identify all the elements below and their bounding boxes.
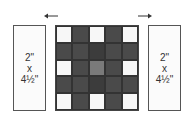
left-strip-height: 4½" (21, 74, 38, 85)
block-cell (72, 76, 88, 93)
block-cell (56, 60, 72, 77)
block-cell (105, 43, 121, 60)
block-cell (89, 76, 105, 93)
block-cell (72, 26, 88, 43)
right-strip-height: 4½" (156, 74, 173, 85)
block-cell (89, 26, 105, 43)
block-cell (122, 93, 138, 110)
arrow-left-icon (44, 12, 58, 20)
block-cell (122, 26, 138, 43)
block-cell (56, 26, 72, 43)
block-cell (105, 60, 121, 77)
block-cell (122, 43, 138, 60)
block-cell (56, 43, 72, 60)
block-cell (72, 43, 88, 60)
right-strip-width: 2" (160, 52, 169, 63)
block-cell (72, 93, 88, 110)
block-cell (105, 93, 121, 110)
block-cell (72, 60, 88, 77)
right-strip: 2" x 4½" (148, 25, 181, 111)
left-strip: 2" x 4½" (13, 25, 46, 111)
block-cell (122, 60, 138, 77)
right-strip-times: x (162, 63, 167, 74)
block-cell (105, 76, 121, 93)
left-strip-width: 2" (25, 52, 34, 63)
block-cell (56, 76, 72, 93)
arrow-right-icon (138, 12, 152, 20)
left-strip-times: x (27, 63, 32, 74)
block-cell (89, 93, 105, 110)
block-cell (56, 93, 72, 110)
block-cell (89, 43, 105, 60)
block-cell (122, 76, 138, 93)
block-center-cell (89, 60, 105, 77)
block-cell (105, 26, 121, 43)
center-quilt-block (55, 25, 139, 111)
